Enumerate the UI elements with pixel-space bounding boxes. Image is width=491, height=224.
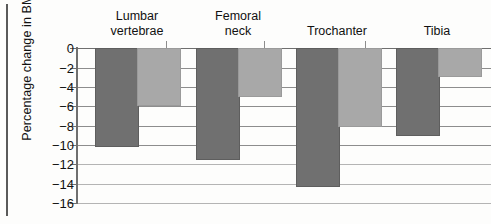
bar-femoral-neck-light[interactable] [238, 48, 282, 97]
group-label-femoral-neck: Femoral neck [188, 9, 288, 39]
bar-tibia-light[interactable] [438, 48, 482, 77]
group-label-femoral-neck-line1: Femoral [188, 9, 288, 24]
bar-chart-figure: Percentage change in BMD 0 −2 −4 −6 −8 −… [0, 0, 491, 224]
bar-lumbar-vertebrae-dark[interactable] [95, 48, 139, 147]
group-labels: Lumbar vertebrae Femoral neck Trochanter… [0, 0, 491, 48]
group-label-lumbar-vertebrae-line2: vertebrae [87, 24, 187, 39]
group-label-tibia: Tibia [387, 24, 487, 39]
group-label-trochanter-line1: Trochanter [287, 24, 387, 39]
bar-trochanter-dark[interactable] [296, 48, 340, 187]
bar-tibia-dark[interactable] [396, 48, 440, 136]
bar-lumbar-vertebrae-light[interactable] [137, 48, 181, 106]
group-label-trochanter: Trochanter [287, 24, 387, 39]
group-label-lumbar-vertebrae: Lumbar vertebrae [87, 9, 187, 39]
group-label-tibia-line1: Tibia [387, 24, 487, 39]
group-label-femoral-neck-line2: neck [188, 24, 288, 39]
group-label-lumbar-vertebrae-line1: Lumbar [87, 9, 187, 24]
bar-femoral-neck-dark[interactable] [196, 48, 240, 160]
bar-trochanter-light[interactable] [338, 48, 382, 127]
